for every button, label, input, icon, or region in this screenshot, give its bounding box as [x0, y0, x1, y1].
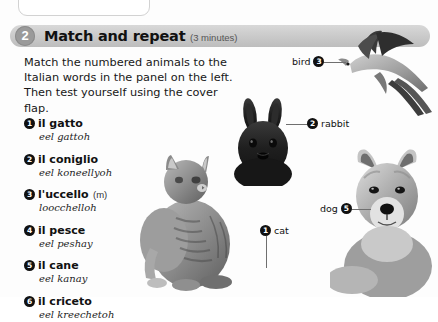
pronunciation: eel gattoh: [39, 131, 159, 142]
italian-word: il coniglio: [38, 153, 98, 166]
cat-leader-line: [266, 236, 267, 268]
callout-dog: dog 5: [320, 203, 352, 214]
item-number-badge: 3: [24, 189, 35, 200]
item-number-badge: 1: [24, 118, 35, 129]
list-item: 1il gatto eel gattoh: [24, 113, 159, 142]
item-number-badge: 6: [24, 296, 35, 307]
section-duration: (3 minutes): [190, 28, 238, 47]
callout-rabbit-number: 2: [307, 118, 318, 129]
callout-rabbit: 2 rabbit: [307, 118, 349, 129]
pronunciation: eel kreechetoh: [39, 309, 159, 320]
callout-cat: 1 cat: [260, 225, 289, 236]
callout-cat-label: cat: [274, 225, 289, 236]
italian-word: il criceto: [38, 295, 92, 308]
item-number-badge: 4: [24, 225, 35, 236]
bird-photo: [336, 28, 438, 120]
gender-marker: (m): [93, 189, 107, 200]
callout-bird: bird 3: [292, 56, 324, 67]
italian-word: il pesce: [38, 224, 85, 237]
callout-bird-number: 3: [313, 56, 324, 67]
italian-word: il cane: [38, 259, 79, 272]
section-title: Match and repeat: [44, 26, 185, 47]
callout-rabbit-label: rabbit: [321, 118, 349, 129]
rabbit-leader-line: [286, 124, 308, 125]
callout-dog-label: dog: [320, 203, 338, 214]
callout-bird-label: bird: [292, 56, 310, 67]
item-number-badge: 2: [24, 154, 35, 165]
cat-photo: [124, 152, 248, 297]
item-number-badge: 5: [24, 260, 35, 271]
callout-cat-number: 1: [260, 225, 271, 236]
italian-word: l'uccello: [38, 188, 89, 201]
instruction-text: Match the numbered animals to the Italia…: [24, 55, 234, 116]
italian-word: il gatto: [38, 117, 83, 130]
step-number-badge: 2: [15, 26, 35, 46]
previous-exercise-panel: [18, 0, 150, 16]
callout-dog-number: 5: [341, 203, 352, 214]
dog-photo: [330, 148, 438, 297]
